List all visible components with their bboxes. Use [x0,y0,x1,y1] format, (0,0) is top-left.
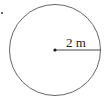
diagram-canvas: 2 m [0,0,104,100]
radius-label: 2 m [66,35,86,50]
bullet-marker [1,12,3,14]
